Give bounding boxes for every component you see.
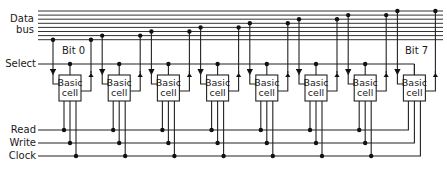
bus-junction bbox=[384, 13, 388, 17]
bus-junction bbox=[297, 17, 301, 21]
bus-junction bbox=[248, 21, 252, 25]
up-arrow-icon bbox=[384, 73, 389, 77]
wires bbox=[38, 11, 438, 156]
bus-junction bbox=[149, 29, 153, 33]
control-junction bbox=[221, 154, 225, 158]
basic-cell-label: cell bbox=[259, 87, 275, 98]
select-junction bbox=[215, 62, 219, 66]
control-junction bbox=[215, 141, 219, 145]
basic-cell-label: cell bbox=[62, 87, 78, 98]
label-read: Read bbox=[11, 124, 36, 135]
bus-junction bbox=[236, 25, 240, 29]
control-junction bbox=[209, 128, 213, 132]
up-arrow-icon bbox=[334, 73, 339, 77]
basic-cell-label: cell bbox=[406, 87, 422, 98]
data-bus bbox=[38, 11, 443, 40]
bus-junction bbox=[100, 33, 104, 37]
up-arrow-icon bbox=[285, 73, 290, 77]
register-diagram: BasiccellBasiccellBasiccellBasiccellBasi… bbox=[0, 0, 447, 172]
label-write: Write bbox=[10, 137, 36, 148]
control-junction bbox=[74, 154, 78, 158]
control-junction bbox=[369, 154, 373, 158]
control-junction bbox=[259, 128, 263, 132]
control-junction bbox=[320, 154, 324, 158]
basic-cell: Basiccell bbox=[107, 75, 132, 101]
up-arrow-icon bbox=[138, 73, 143, 77]
control-junction bbox=[62, 128, 66, 132]
cells: BasiccellBasiccellBasiccellBasiccellBasi… bbox=[57, 75, 427, 101]
basic-cell: Basiccell bbox=[353, 75, 378, 101]
select-junction bbox=[363, 62, 367, 66]
control-junction bbox=[265, 141, 269, 145]
bus-junction bbox=[89, 38, 93, 42]
control-junction bbox=[160, 128, 164, 132]
up-arrow-icon bbox=[236, 73, 241, 77]
bus-junction bbox=[51, 38, 55, 42]
bus-junction bbox=[286, 21, 290, 25]
control-line bbox=[38, 101, 414, 143]
control-junction bbox=[123, 154, 127, 158]
basic-cell-label: cell bbox=[111, 87, 127, 98]
up-arrow-icon bbox=[187, 73, 192, 77]
select-junction bbox=[314, 62, 318, 66]
control-junction bbox=[314, 141, 318, 145]
basic-cell-label: cell bbox=[357, 87, 373, 98]
bus-junction bbox=[346, 13, 350, 17]
basic-cell: Basiccell bbox=[402, 75, 427, 101]
control-junction bbox=[271, 154, 275, 158]
bus-junction bbox=[138, 33, 142, 37]
basic-cell-label: cell bbox=[209, 87, 225, 98]
basic-cell: Basiccell bbox=[254, 75, 279, 101]
control-junction bbox=[117, 141, 121, 145]
select-junction bbox=[265, 62, 269, 66]
control-junction bbox=[172, 154, 176, 158]
label-bus: bus bbox=[16, 24, 34, 35]
bus-junction bbox=[187, 29, 191, 33]
control-junction bbox=[363, 141, 367, 145]
label-bit-7: Bit 7 bbox=[405, 45, 428, 56]
basic-cell: Basiccell bbox=[303, 75, 328, 101]
label-select: Select bbox=[5, 58, 36, 69]
control-junction bbox=[166, 141, 170, 145]
control-junction bbox=[357, 128, 361, 132]
bus-junction bbox=[335, 17, 339, 21]
label-data: Data bbox=[10, 13, 34, 24]
up-arrow-icon bbox=[88, 73, 93, 77]
select-junction bbox=[166, 62, 170, 66]
label-clock: Clock bbox=[9, 150, 36, 161]
control-line bbox=[38, 101, 420, 156]
bus-junction bbox=[198, 25, 202, 29]
select-junction bbox=[117, 62, 121, 66]
control-junction bbox=[308, 128, 312, 132]
control-junction bbox=[111, 128, 115, 132]
basic-cell: Basiccell bbox=[205, 75, 230, 101]
basic-cell: Basiccell bbox=[57, 75, 82, 101]
bus-junction bbox=[395, 9, 399, 13]
bus-junction bbox=[433, 9, 437, 13]
select-junction bbox=[68, 62, 72, 66]
control-junction bbox=[68, 141, 72, 145]
basic-cell: Basiccell bbox=[156, 75, 181, 101]
up-arrow-icon bbox=[433, 73, 438, 77]
basic-cell-label: cell bbox=[308, 87, 324, 98]
label-bit-0: Bit 0 bbox=[62, 45, 85, 56]
basic-cell-label: cell bbox=[160, 87, 176, 98]
diagram-canvas: BasiccellBasiccellBasiccellBasiccellBasi… bbox=[0, 0, 447, 172]
